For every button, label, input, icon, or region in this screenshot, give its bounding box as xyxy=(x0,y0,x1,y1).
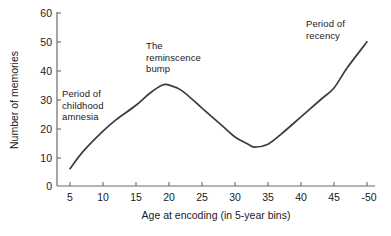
x-tick-label-10: 10 xyxy=(97,191,109,203)
y-axis-tick-labels: 60 50 40 30 20 10 0 xyxy=(40,7,52,192)
y-axis-title: Number of memories xyxy=(8,51,20,149)
y-tick-label-30: 30 xyxy=(40,94,52,106)
memory-retention-chart: 60 50 40 30 20 10 0 5 10 15 20 2 xyxy=(0,0,391,236)
x-tick-label-15: 15 xyxy=(130,191,142,203)
x-tick-label-35: 35 xyxy=(262,191,274,203)
x-tick-label-25: 25 xyxy=(196,191,208,203)
x-tick-label-45: 45 xyxy=(328,191,340,203)
annotation-period-of-recency: Period of recency xyxy=(306,18,370,41)
y-tick-label-20: 20 xyxy=(40,123,52,135)
y-tick-label-10: 10 xyxy=(40,152,52,164)
x-tick-label-20: 20 xyxy=(163,191,175,203)
x-tick-label-50: -50 xyxy=(361,191,376,203)
x-axis-title: Age at encoding (in 5-year bins) xyxy=(142,209,291,221)
x-tick-label-30: 30 xyxy=(229,191,241,203)
y-tick-label-60: 60 xyxy=(40,7,52,19)
x-tick-label-5: 5 xyxy=(67,191,73,203)
x-axis-tick-labels: 5 10 15 20 25 30 35 40 45 -50 xyxy=(67,191,377,203)
y-tick-label-40: 40 xyxy=(40,65,52,77)
x-tick-label-40: 40 xyxy=(295,191,307,203)
y-tick-label-50: 50 xyxy=(40,36,52,48)
annotation-childhood-amnesia: Period of childhood amnesia xyxy=(62,88,128,123)
y-tick-label-0: 0 xyxy=(46,180,52,192)
annotation-reminiscence-bump: The reminscence bump xyxy=(146,40,216,75)
